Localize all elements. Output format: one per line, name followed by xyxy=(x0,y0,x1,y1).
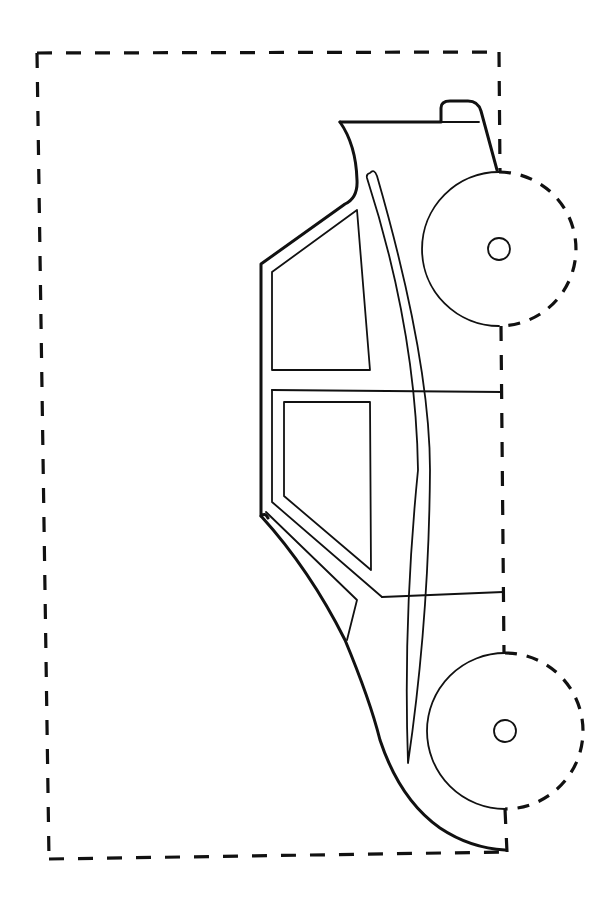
front-wheel xyxy=(422,172,576,326)
rear-wheel-hub-icon xyxy=(494,720,516,742)
fender-sliver xyxy=(367,171,430,763)
cut-border-bottom xyxy=(49,852,507,859)
front-wheel-hub-icon xyxy=(488,238,510,260)
rear-window xyxy=(284,402,371,570)
front-body-curve xyxy=(261,122,357,518)
hood-outline xyxy=(340,101,497,170)
cut-border-right-bottom xyxy=(505,809,507,852)
cut-border-top xyxy=(37,52,499,53)
windows xyxy=(266,210,382,640)
rear-wheel xyxy=(427,653,583,809)
car-template-drawing xyxy=(0,0,614,906)
cut-border-right-middle xyxy=(501,326,504,653)
door-line-upper xyxy=(272,390,502,392)
cut-border-right-top xyxy=(499,52,500,172)
door-lines xyxy=(272,390,503,597)
car-body xyxy=(261,101,505,850)
cut-border-left xyxy=(37,53,49,859)
door-line-lower xyxy=(382,592,503,597)
front-window xyxy=(272,210,370,370)
rear-trim xyxy=(266,512,357,640)
